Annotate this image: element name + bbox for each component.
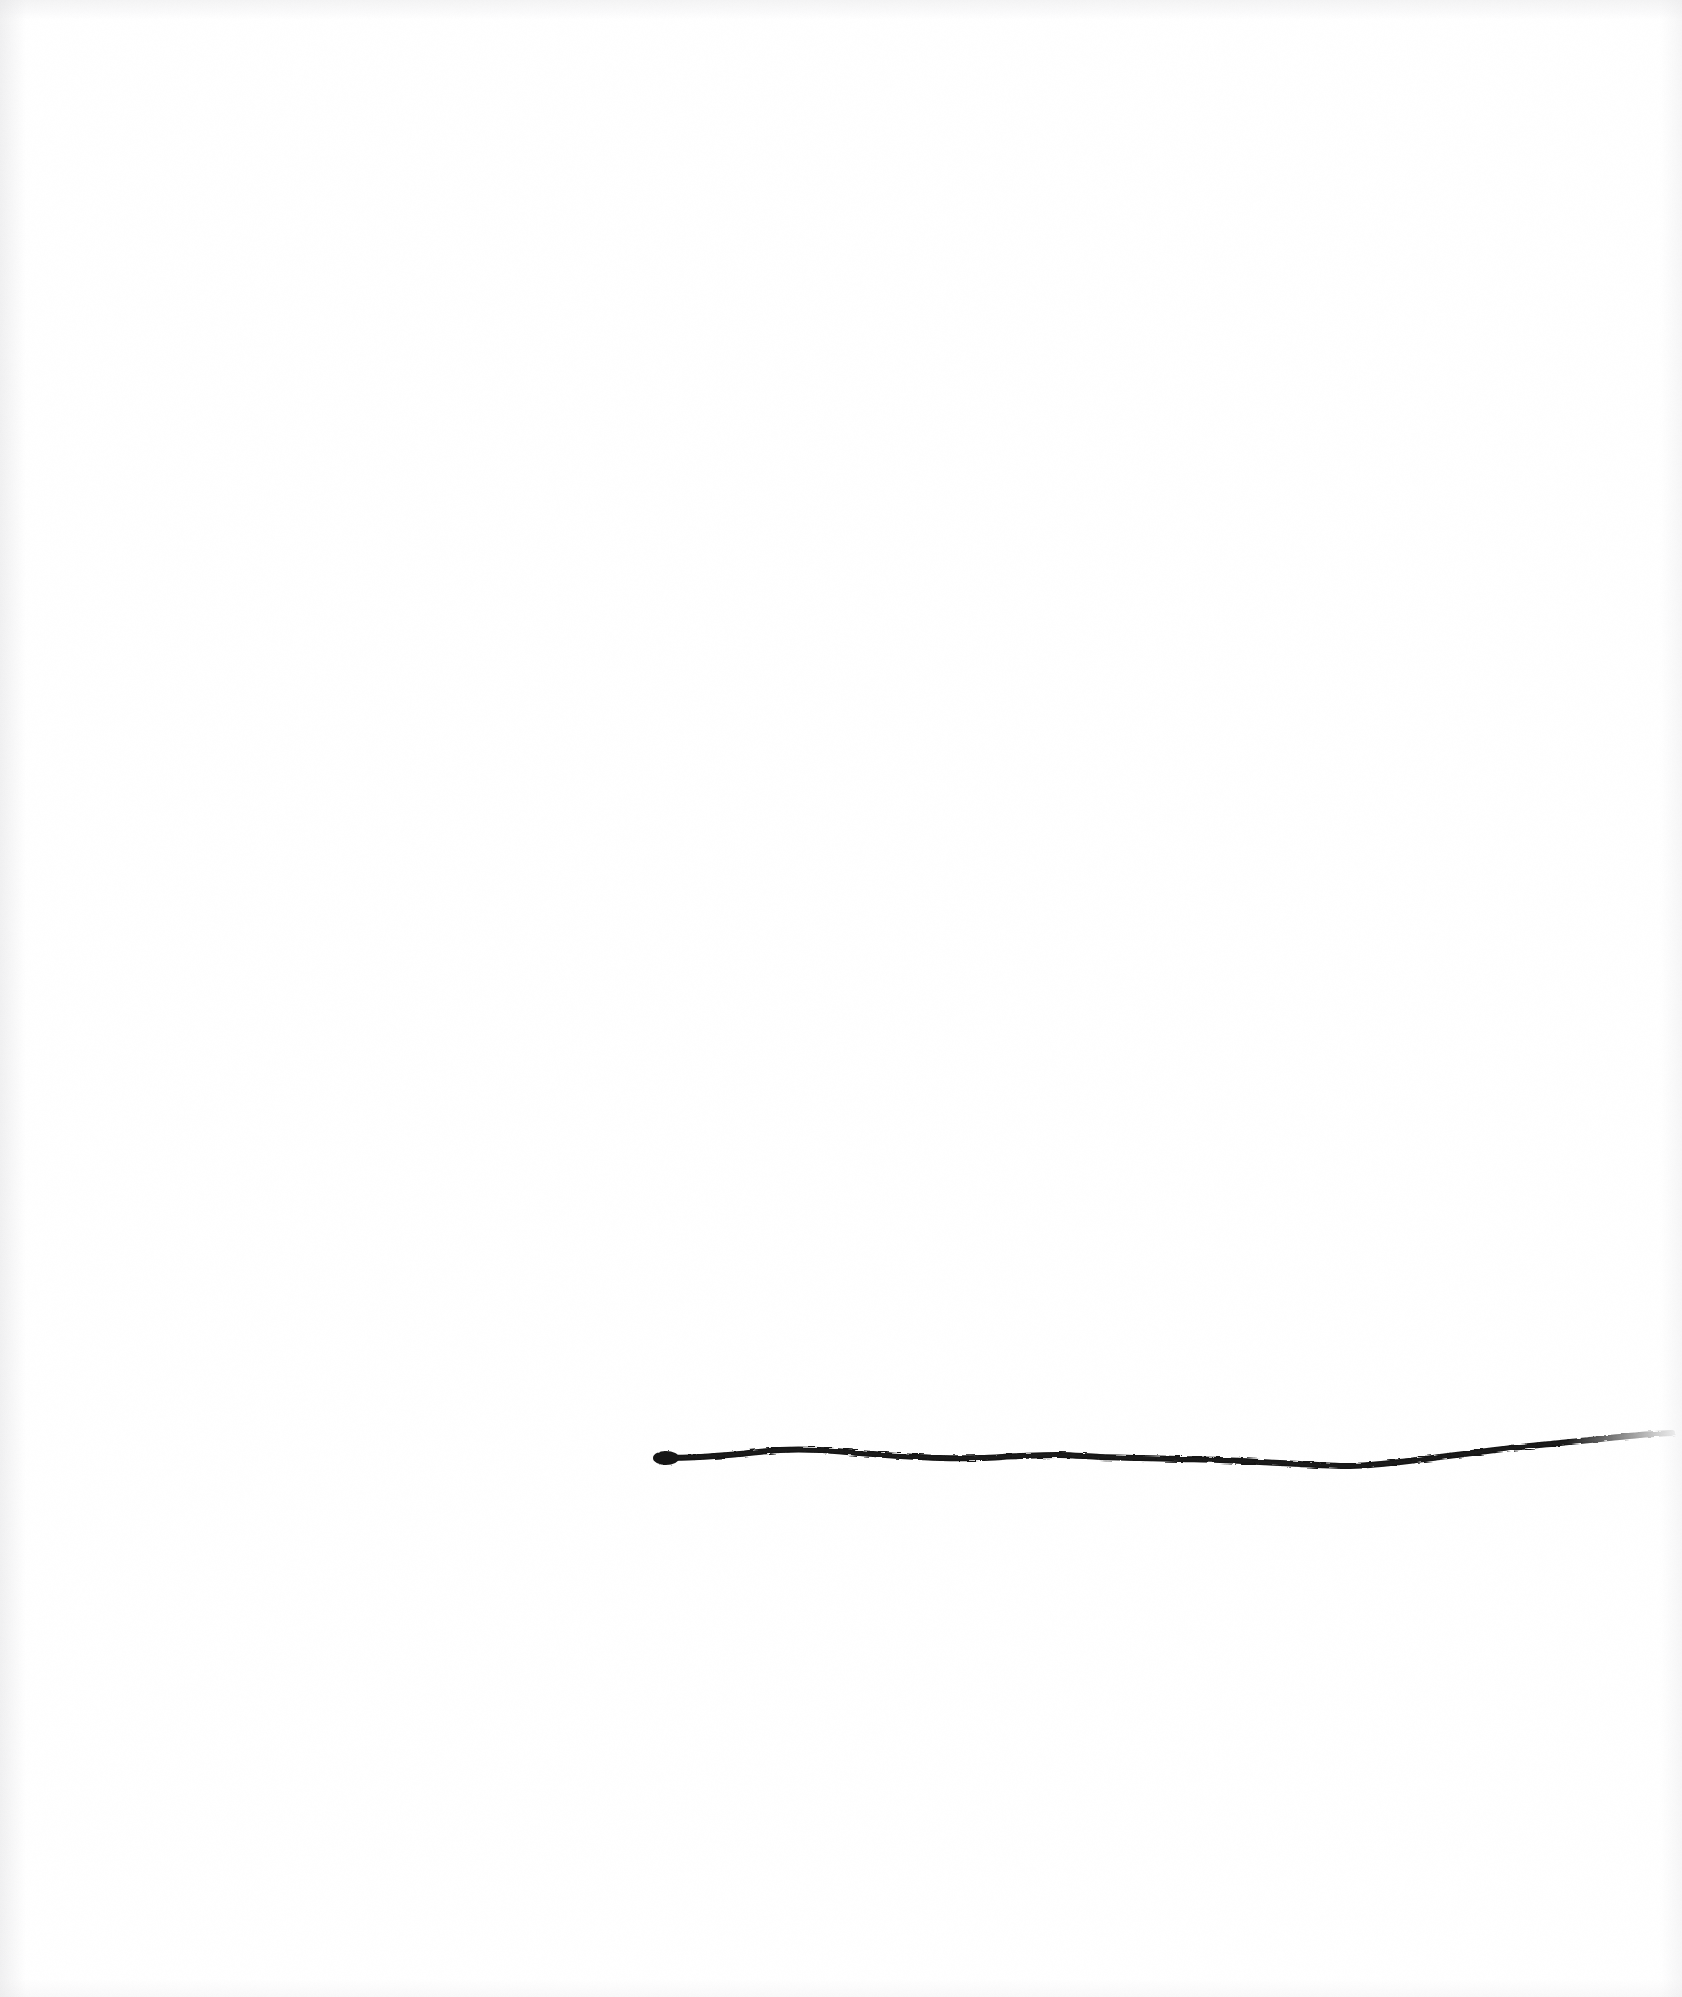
line-start-blob	[653, 1451, 679, 1465]
drawn-line-layer	[0, 0, 1682, 1997]
hand-drawn-line	[653, 1433, 1672, 1466]
drawn-line-svg	[0, 0, 1682, 1997]
artwork-canvas	[0, 0, 1682, 1997]
